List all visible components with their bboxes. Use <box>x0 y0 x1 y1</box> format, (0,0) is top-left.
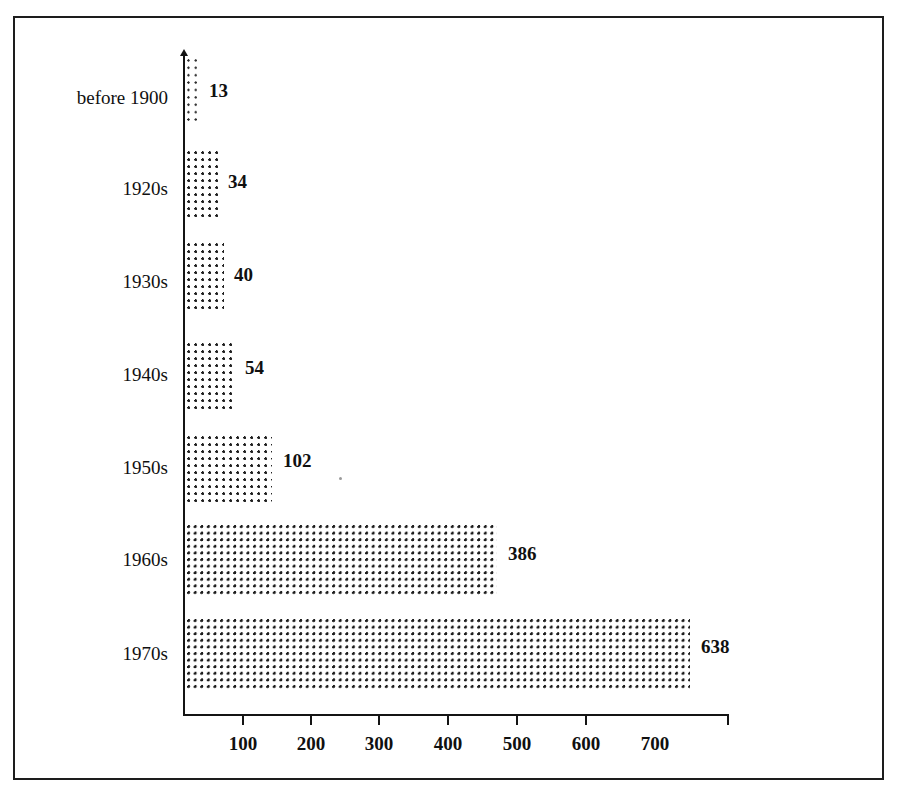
bar-value-1960s: 386 <box>508 543 537 565</box>
x-axis-tick-100 <box>242 716 244 725</box>
category-label-4: 1950s <box>0 457 168 479</box>
bar-value-before-1900: 13 <box>209 80 228 102</box>
x-axis-tick-400 <box>447 716 449 725</box>
y-axis-line <box>183 55 185 715</box>
category-label-5: 1960s <box>0 549 168 571</box>
x-axis-tick-label-100: 100 <box>213 733 273 755</box>
category-label-1: 1920s <box>0 178 168 200</box>
x-axis-tick-label-200: 200 <box>281 733 341 755</box>
bar-before-1900 <box>186 58 197 122</box>
x-axis-tick-label-700: 700 <box>625 733 685 755</box>
bar-1930s <box>186 242 224 311</box>
category-label-6: 1970s <box>0 643 168 665</box>
x-axis-tick-label-600: 600 <box>556 733 616 755</box>
x-axis-tick-300 <box>378 716 380 725</box>
bar-value-1930s: 40 <box>234 264 253 286</box>
category-label-0: before 1900 <box>0 87 168 109</box>
bar-1950s <box>186 435 272 502</box>
x-axis-line <box>183 714 729 716</box>
x-axis-tick-label-400: 400 <box>418 733 478 755</box>
bar-1960s <box>186 524 497 597</box>
scan-speck <box>339 477 342 480</box>
bar-value-1940s: 54 <box>245 357 264 379</box>
x-axis-tick-label-500: 500 <box>487 733 547 755</box>
figure-container: · · · · · · before 1900 1920s 1930s 1940… <box>0 0 900 807</box>
bar-1970s <box>186 618 690 690</box>
category-label-2: 1930s <box>0 271 168 293</box>
x-axis-tick-label-300: 300 <box>349 733 409 755</box>
x-axis-tick-600 <box>585 716 587 725</box>
x-axis-tick-200 <box>310 716 312 725</box>
bar-1920s <box>186 150 218 218</box>
x-axis-tick-700 <box>727 716 729 725</box>
bar-value-1920s: 34 <box>228 171 247 193</box>
bar-value-1950s: 102 <box>283 450 312 472</box>
bar-value-1970s: 638 <box>701 636 730 658</box>
x-axis-tick-500 <box>516 716 518 725</box>
category-label-3: 1940s <box>0 364 168 386</box>
bar-1940s <box>186 342 235 410</box>
plot-area: before 1900 1920s 1930s 1940s 1950s 1960… <box>0 0 900 807</box>
